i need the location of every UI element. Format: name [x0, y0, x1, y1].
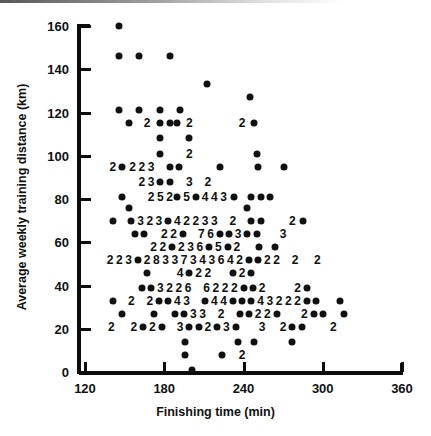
data-point-dot — [214, 323, 221, 330]
data-point-dot — [245, 256, 252, 263]
data-point-dot — [310, 310, 317, 317]
data-point-dot — [298, 323, 305, 330]
data-point-dot — [157, 150, 164, 157]
data-count-label: 3 — [171, 254, 178, 266]
data-point-dot — [157, 120, 164, 127]
data-point-dot — [289, 338, 296, 345]
data-count-label: 4 — [257, 295, 264, 307]
y-tick-20 — [81, 328, 91, 331]
data-point-dot — [166, 178, 173, 185]
data-count-label: 3 — [148, 176, 155, 188]
data-point-dot — [203, 81, 210, 88]
data-point-dot — [138, 284, 145, 291]
data-count-label: 2 — [285, 295, 292, 307]
data-count-label: 2 — [204, 176, 211, 188]
data-point-dot — [157, 135, 164, 142]
data-point-dot — [266, 193, 273, 200]
data-count-label: 8 — [153, 254, 160, 266]
data-count-label: 3 — [156, 215, 163, 227]
data-count-label: 6 — [197, 241, 204, 253]
data-point-dot — [256, 243, 263, 250]
data-count-label: 2 — [166, 191, 173, 203]
data-point-dot — [186, 323, 193, 330]
data-point-dot — [303, 284, 310, 291]
data-point-dot — [171, 310, 178, 317]
data-point-dot — [247, 94, 254, 101]
data-count-label: 3 — [235, 228, 242, 240]
data-point-dot — [125, 204, 132, 211]
data-count-label: 2 — [183, 215, 190, 227]
data-point-dot — [182, 351, 189, 358]
data-point-dot — [169, 243, 176, 250]
data-count-label: 3 — [137, 215, 144, 227]
data-point-dot — [182, 338, 189, 345]
y-tick-40 — [81, 285, 91, 288]
data-point-dot — [179, 230, 186, 237]
data-count-label: 2 — [166, 282, 173, 294]
data-point-dot — [109, 217, 116, 224]
scatter-plot-canvas: 020406080100120140160 120180240300360 22… — [0, 0, 431, 436]
data-point-dot — [229, 297, 236, 304]
data-count-label: 4 — [177, 267, 184, 279]
data-count-label: 2 — [108, 321, 115, 333]
x-tick-120 — [84, 362, 87, 372]
data-point-dot — [232, 323, 239, 330]
data-count-label: 2 — [239, 349, 246, 361]
data-count-label: 3 — [259, 321, 266, 333]
data-point-dot — [188, 366, 195, 373]
data-point-dot — [166, 53, 173, 60]
data-point-dot — [249, 284, 256, 291]
data-point-dot — [116, 53, 123, 60]
data-count-label: 3 — [186, 176, 193, 188]
data-count-label: 3 — [267, 295, 274, 307]
y-axis-label: Average weekly training distance (km) — [15, 47, 29, 347]
x-axis-label: Finishing time (min) — [0, 405, 431, 419]
data-count-label: 3 — [208, 254, 215, 266]
data-point-dot — [236, 310, 243, 317]
data-point-dot — [148, 284, 155, 291]
data-count-label: 3 — [187, 241, 194, 253]
y-tick-60 — [81, 241, 91, 244]
data-count-label: 6 — [203, 282, 210, 294]
data-count-label: 3 — [280, 228, 287, 240]
data-count-label: 4 — [227, 254, 234, 266]
data-point-dot — [251, 120, 258, 127]
data-point-dot — [248, 269, 255, 276]
data-point-dot — [251, 338, 258, 345]
data-count-label: 2 — [146, 295, 153, 307]
data-point-dot — [248, 193, 255, 200]
data-count-label: 4 — [202, 191, 209, 203]
data-point-dot — [116, 23, 123, 30]
data-count-label: 3 — [125, 254, 132, 266]
data-count-label: 4 — [220, 295, 227, 307]
data-count-label: 2 — [276, 295, 283, 307]
data-point-dot — [157, 178, 164, 185]
data-point-dot — [229, 269, 236, 276]
data-point-dot — [174, 193, 181, 200]
data-point-dot — [136, 107, 143, 114]
data-point-dot — [166, 120, 173, 127]
data-count-label: 4 — [211, 191, 218, 203]
data-point-dot — [257, 193, 264, 200]
data-count-label: 2 — [160, 241, 167, 253]
data-count-label: 2 — [264, 254, 271, 266]
data-point-dot — [245, 310, 252, 317]
data-count-label: 3 — [157, 282, 164, 294]
data-count-label: 5 — [215, 241, 222, 253]
data-count-label: 2 — [204, 267, 211, 279]
data-point-dot — [253, 150, 260, 157]
data-count-label: 4 — [174, 295, 181, 307]
data-count-label: 3 — [190, 308, 197, 320]
data-count-label: 2 — [116, 254, 123, 266]
data-count-label: 2 — [231, 282, 238, 294]
data-count-label: 2 — [107, 254, 114, 266]
data-point-dot — [299, 217, 306, 224]
data-count-label: 3 — [148, 161, 155, 173]
data-point-dot — [202, 297, 209, 304]
data-count-label: 4 — [174, 215, 181, 227]
data-point-dot — [165, 297, 172, 304]
data-point-dot — [132, 230, 139, 237]
y-tick-100 — [81, 155, 91, 158]
data-count-label: 4 — [199, 254, 206, 266]
data-count-label: 2 — [212, 282, 219, 294]
